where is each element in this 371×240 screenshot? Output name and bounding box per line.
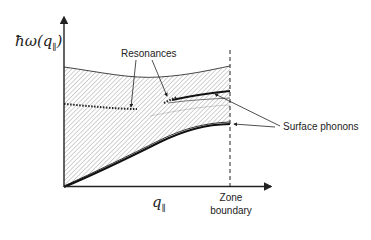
zone-boundary-line1: Zone bbox=[208, 191, 254, 204]
zone-boundary-line2: boundary bbox=[208, 204, 254, 217]
surface-phonon-arrow-lower bbox=[234, 124, 275, 127]
x-axis-label: q∥ bbox=[152, 193, 166, 213]
resonances-label: Resonances bbox=[121, 48, 177, 59]
y-axis-label: ħω(q∥) bbox=[15, 32, 62, 52]
surface-phonons-label: Surface phonons bbox=[283, 121, 359, 132]
zone-boundary-label: Zone boundary bbox=[208, 191, 254, 217]
